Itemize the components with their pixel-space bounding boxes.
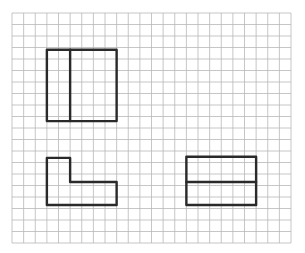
grid-lines: [12, 13, 291, 243]
paper-background: [0, 0, 305, 253]
grid-paper-diagram: [0, 0, 305, 253]
